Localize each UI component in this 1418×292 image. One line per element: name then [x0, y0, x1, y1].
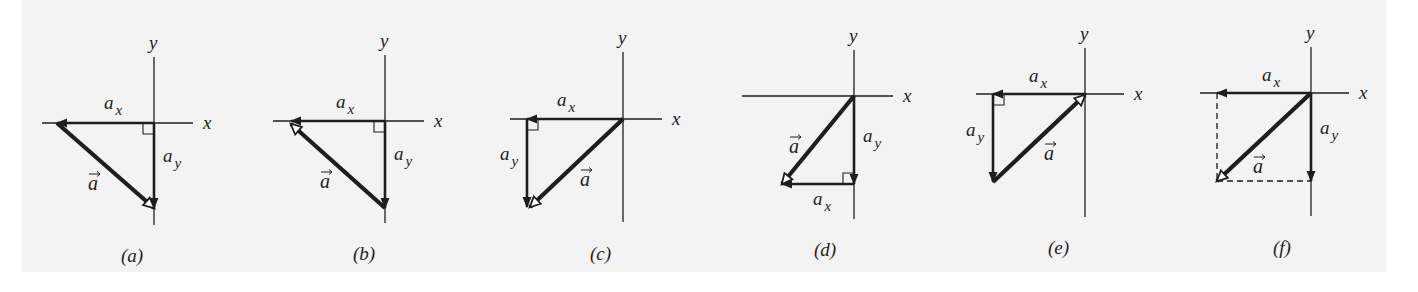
x-axis-label: x	[202, 112, 212, 133]
label-vector-a: a	[789, 135, 799, 157]
panel-caption: (a)	[121, 245, 143, 267]
x-axis-label: x	[1358, 82, 1368, 103]
vector-components-figure: xyaxaya(a)xyaxaya(b)xyaxaya(c)xyaxaya(d)…	[0, 0, 1418, 292]
label-vector-a: a	[88, 172, 98, 194]
label-vector-a: a	[1253, 155, 1263, 177]
panel-caption: (e)	[1048, 237, 1069, 259]
figure-background	[22, 0, 1386, 272]
y-axis-label: y	[616, 27, 627, 48]
panel-caption: (d)	[814, 239, 836, 261]
panel-caption: (b)	[353, 243, 375, 265]
panel-caption: (f)	[1273, 237, 1291, 259]
label-vector-a: a	[580, 168, 590, 190]
label-vector-a: a	[1044, 142, 1054, 164]
x-axis-label: x	[902, 85, 912, 106]
label-vector-a: a	[320, 170, 330, 192]
x-axis-label: x	[671, 108, 681, 129]
y-axis-label: y	[847, 25, 858, 46]
y-axis-label: y	[1078, 23, 1089, 44]
y-axis-label: y	[147, 32, 158, 53]
y-axis-label: y	[1304, 22, 1315, 43]
x-axis-label: x	[1133, 83, 1143, 104]
panel-caption: (c)	[590, 243, 611, 265]
x-axis-label: x	[433, 110, 443, 131]
y-axis-label: y	[378, 30, 389, 51]
